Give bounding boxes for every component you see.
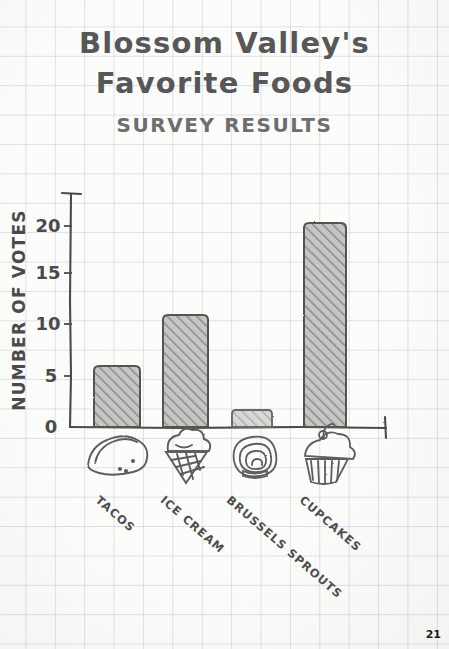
page-number: 21	[426, 628, 441, 641]
y-tick-label-15: 15	[35, 262, 60, 283]
chart-title-line-2: Favorite Foods	[0, 66, 449, 101]
y-tick-label-0: 0	[45, 416, 58, 437]
chart-title-block: Blossom Valley's Favorite Foods SURVEY R…	[0, 26, 449, 137]
y-axis-top-cap	[62, 193, 81, 194]
bar-cupcakes[interactable]	[304, 223, 346, 427]
x-axis-end-cap	[385, 417, 386, 438]
bar-tacos[interactable]	[94, 366, 140, 427]
chart-subtitle: SURVEY RESULTS	[0, 113, 449, 137]
chart-title-line-1: Blossom Valley's	[0, 26, 449, 61]
bar-chart: 20 15 10 5 0 NUMBER OF VOTES	[0, 180, 449, 600]
y-tick-label-10: 10	[35, 313, 60, 334]
y-tick-label-20: 20	[35, 215, 60, 236]
chart-canvas: 20 15 10 5 0 NUMBER OF VOTES	[0, 180, 449, 600]
ice-cream-cone-icon	[166, 429, 210, 483]
y-axis-line	[70, 194, 71, 427]
bar-brussels-sprouts[interactable]	[232, 410, 272, 427]
brussels-sprout-icon	[234, 437, 277, 478]
y-axis-title: NUMBER OF VOTES	[9, 209, 29, 410]
cupcake-icon	[305, 424, 355, 484]
bar-ice-cream[interactable]	[163, 315, 208, 427]
taco-icon	[88, 436, 147, 475]
y-tick-label-5: 5	[45, 365, 58, 386]
